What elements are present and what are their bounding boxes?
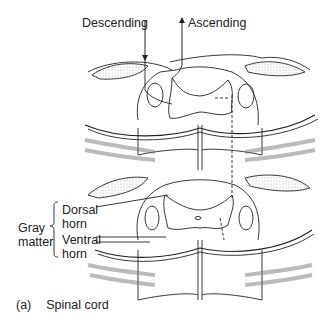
dorsal-horn-line2: horn xyxy=(62,217,98,231)
dorsal-horn-label: Dorsal horn xyxy=(62,203,98,231)
dorsal-horn-line1: Dorsal xyxy=(62,203,98,217)
descending-label: Descending xyxy=(82,16,148,30)
spinal-cord-diagram xyxy=(0,0,334,325)
gray-matter-label: Gray matter xyxy=(18,221,53,249)
ventral-horn-line1: Ventral xyxy=(62,233,101,247)
caption-letter: (a) xyxy=(16,298,31,312)
gray-matter-line2: matter xyxy=(18,235,53,249)
ventral-horn-line2: horn xyxy=(62,247,101,261)
figure-caption: (a) Spinal cord xyxy=(16,298,109,312)
caption-text: Spinal cord xyxy=(46,298,109,312)
gray-matter-line1: Gray xyxy=(18,221,53,235)
ascending-label: Ascending xyxy=(188,16,246,30)
upper-segment xyxy=(85,55,318,180)
ventral-horn-label: Ventral horn xyxy=(62,233,101,261)
